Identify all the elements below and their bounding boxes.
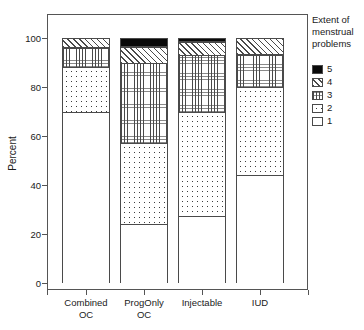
bar-combined-oc[interactable] <box>62 38 110 283</box>
legend-items: 54321 <box>312 63 364 127</box>
bar-segment-2[interactable] <box>178 112 226 216</box>
y-tick-label: 100 <box>25 33 41 44</box>
bar-segment-4[interactable] <box>120 47 168 63</box>
legend-item-1[interactable]: 1 <box>312 115 364 127</box>
legend-label-2: 2 <box>327 103 332 113</box>
y-tick-label: 0 <box>36 278 41 289</box>
bar-segment-2[interactable] <box>62 67 110 111</box>
legend-label-1: 1 <box>327 116 332 126</box>
bar-segment-1[interactable] <box>120 224 168 283</box>
y-tick-label: 60 <box>30 131 41 142</box>
bar-segment-3[interactable] <box>120 63 168 144</box>
x-tick-mark <box>202 290 203 295</box>
bar-segment-2[interactable] <box>236 87 284 175</box>
bar-iud[interactable] <box>236 38 284 283</box>
y-tick-label: 40 <box>30 180 41 191</box>
x-axis-end-tick <box>47 290 48 295</box>
legend-swatch-4 <box>312 78 323 87</box>
x-tick-mark <box>144 290 145 295</box>
bar-injectable[interactable] <box>178 38 226 283</box>
x-tick-label-line-1: IUD <box>225 297 295 309</box>
y-tick-label: 20 <box>30 229 41 240</box>
legend-swatch-2 <box>312 104 323 113</box>
legend-item-5[interactable]: 5 <box>312 63 364 75</box>
legend-label-4: 4 <box>327 77 332 87</box>
bar-segment-3[interactable] <box>178 55 226 111</box>
legend-title-line-1: Extent of <box>312 14 364 26</box>
legend-swatch-5 <box>312 65 323 74</box>
legend-label-3: 3 <box>327 90 332 100</box>
legend-item-3[interactable]: 3 <box>312 89 364 101</box>
chart-canvas: Percent 020406080100 Extent of menstrual… <box>0 0 364 330</box>
x-tick-mark <box>260 290 261 295</box>
legend-label-5: 5 <box>327 64 332 74</box>
chart-legend: Extent of menstrual problems 54321 <box>312 14 364 128</box>
bar-segment-4[interactable] <box>236 38 284 55</box>
legend-title: Extent of menstrual problems <box>312 14 364 50</box>
x-tick-label: IUD <box>225 297 295 309</box>
legend-swatch-1 <box>312 117 323 126</box>
bar-segment-1[interactable] <box>62 112 110 284</box>
bar-segment-5[interactable] <box>178 38 226 42</box>
legend-title-line-3: problems <box>312 38 364 50</box>
legend-title-line-2: menstrual <box>312 26 364 38</box>
y-axis: Percent 020406080100 <box>0 0 47 330</box>
y-tick-label: 80 <box>30 82 41 93</box>
bar-segment-4[interactable] <box>178 42 226 55</box>
bar-segment-3[interactable] <box>62 48 110 68</box>
bar-segment-2[interactable] <box>120 143 168 224</box>
legend-item-2[interactable]: 2 <box>312 102 364 114</box>
bar-segment-1[interactable] <box>236 175 284 283</box>
bar-progonly-oc[interactable] <box>120 38 168 283</box>
legend-item-4[interactable]: 4 <box>312 76 364 88</box>
bar-segment-4[interactable] <box>62 38 110 48</box>
x-tick-mark <box>86 290 87 295</box>
bar-segment-1[interactable] <box>178 216 226 283</box>
x-axis-end-tick <box>308 290 309 295</box>
x-tick-label-line-2: OC <box>109 309 179 321</box>
bar-segment-5[interactable] <box>120 38 168 47</box>
bar-segment-3[interactable] <box>236 55 284 87</box>
legend-swatch-3 <box>312 91 323 100</box>
y-axis-title: Percent <box>7 114 18 194</box>
